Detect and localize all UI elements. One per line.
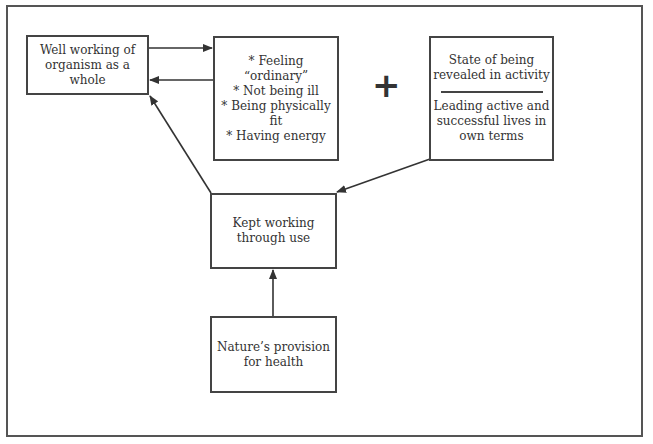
node-label: Nature’s provision for health (217, 340, 330, 370)
node-natures-provision: Nature’s provision for health (210, 316, 337, 393)
state-top-label: State of being revealed in activity (433, 53, 549, 83)
feeling-line: * Feeling “ordinary” (215, 54, 337, 84)
arrow-kept-to-well (150, 96, 211, 193)
node-state-of-being: State of being revealed in activity Lead… (429, 36, 554, 161)
feeling-line: * Having energy (226, 129, 325, 144)
feeling-line: * Being physically fit (215, 99, 337, 129)
feeling-line: * Not being ill (233, 84, 319, 99)
node-feelings: * Feeling “ordinary” * Not being ill * B… (213, 36, 339, 161)
state-bottom-label: Leading active and successful lives in o… (434, 99, 550, 144)
node-label: Kept working through use (233, 216, 315, 246)
node-kept-working: Kept working through use (210, 193, 337, 269)
node-label: Well working of organism as a whole (28, 43, 147, 88)
divider-line (441, 91, 543, 93)
plus-symbol: + (372, 70, 401, 100)
arrow-state-to-kept (337, 159, 430, 192)
node-well-working: Well working of organism as a whole (26, 35, 149, 95)
